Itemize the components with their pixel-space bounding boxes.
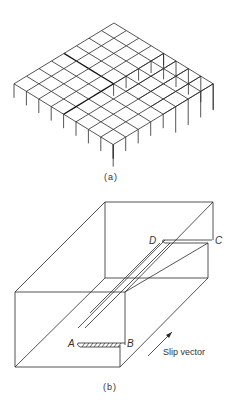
slip-vector-label: Slip vector — [163, 347, 205, 357]
label-b: B — [127, 338, 134, 349]
label-d: D — [149, 235, 156, 246]
label-c: C — [215, 235, 222, 246]
label-a: A — [68, 338, 75, 349]
caption-b: (b) — [103, 382, 117, 392]
caption-a: (a) — [104, 172, 118, 182]
